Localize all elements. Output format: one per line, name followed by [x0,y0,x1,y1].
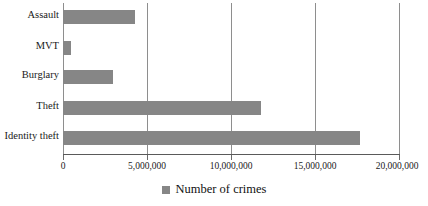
tick-15000000 [315,155,316,160]
tick-5000000 [147,155,148,160]
bar-theft[interactable] [63,101,261,115]
xtick-label-20000000: 20,000,000 [376,161,419,171]
legend-label: Number of crimes [176,182,267,197]
category-label-theft: Theft [0,100,59,112]
category-label-assault: Assault [0,9,59,21]
gridline-20000000 [399,3,400,155]
category-label-identity-theft: Identity theft [0,130,59,142]
legend-swatch-icon [162,186,170,194]
tick-0 [63,155,64,160]
plot-area [63,3,399,155]
bar-assault[interactable] [63,10,135,24]
xtick-label-0: 0 [61,161,66,171]
tick-10000000 [231,155,232,160]
category-label-burglary: Burglary [0,69,59,81]
tick-20000000 [399,155,400,160]
bar-mvt[interactable] [63,41,71,55]
xtick-label-15000000: 15,000,000 [294,161,337,171]
bar-identity-theft[interactable] [63,131,360,145]
legend-entry-number-of-crimes[interactable]: Number of crimes [162,182,267,197]
xtick-label-10000000: 10,000,000 [210,161,253,171]
category-label-mvt: MVT [0,40,59,52]
bar-chart: Assault MVT Burglary Theft Identity thef… [0,0,428,206]
xtick-label-5000000: 5,000,000 [128,161,166,171]
chart-legend: Number of crimes [0,182,428,198]
bar-burglary[interactable] [63,70,113,84]
